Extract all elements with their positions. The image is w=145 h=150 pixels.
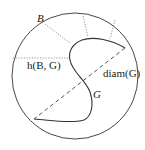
label-ball: B [37,12,44,24]
hausdorff-diagram: B h(B, G) diam(G) G [0,0,145,150]
label-set: G [93,88,101,100]
distance-line-top-1 [83,16,88,37]
label-distance: h(B, G) [27,59,61,72]
label-diameter: diam(G) [103,67,141,80]
set-g-curve [34,38,125,121]
distance-line-b [45,24,70,43]
distance-line-top-2 [110,20,115,39]
